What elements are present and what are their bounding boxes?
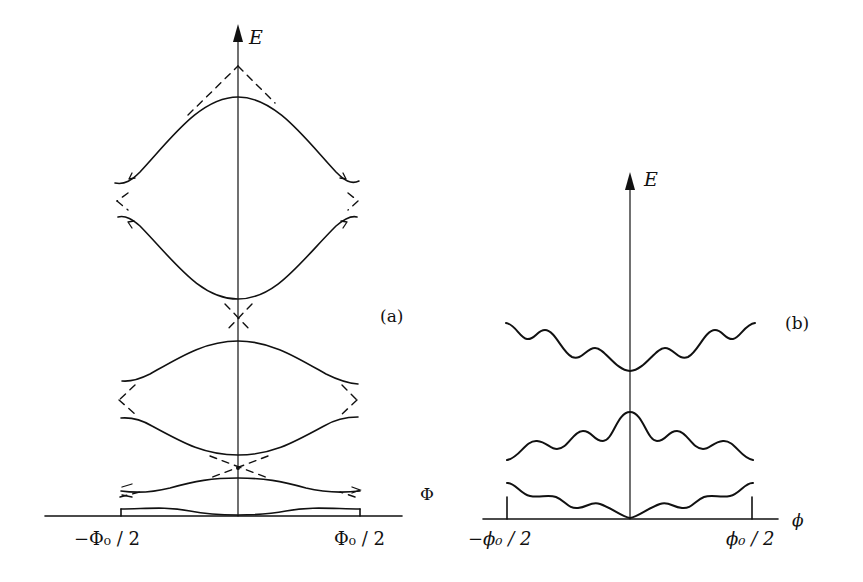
panel-b-x-axis-label: ϕ [792, 510, 804, 530]
panel-a-label: (a) [380, 306, 403, 326]
panel-b-arrow-icon [625, 172, 635, 190]
panel-a-arrow-icon [233, 24, 243, 42]
panel-b-tick-left: −ϕ₀ / 2 [468, 528, 532, 549]
panel-a-tick-left: −Φ₀ / 2 [74, 528, 140, 549]
panel-a-arrow-markers [122, 173, 360, 497]
panel-b-label: (b) [785, 313, 809, 333]
panel-a-axes [45, 40, 402, 516]
panel-b-axes [483, 190, 778, 519]
panel-b-tick-right: ϕ₀ / 2 [726, 528, 774, 549]
panel-b-y-axis-label: E [644, 168, 658, 190]
panel-a-tick-right: Φ₀ / 2 [334, 528, 385, 549]
panel-a-x-axis-label: Φ [420, 484, 434, 504]
panel-a-y-axis-label: E [249, 26, 263, 48]
